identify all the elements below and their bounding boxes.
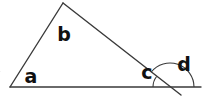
triangle-diagram-canvas: a b c d — [0, 0, 210, 96]
angle-label-a: a — [25, 65, 38, 87]
angle-arc-c — [153, 77, 157, 87]
angle-label-b: b — [57, 23, 71, 45]
geometry-figure: a b c d — [0, 0, 210, 96]
angle-label-d: d — [177, 53, 191, 75]
transversal-segment — [63, 3, 181, 95]
angle-label-c: c — [141, 61, 152, 83]
